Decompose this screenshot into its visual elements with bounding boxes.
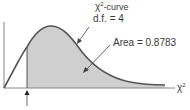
x-axis-label-sup: 2 bbox=[182, 82, 185, 88]
curve-name-label: χ2-curve bbox=[95, 2, 129, 12]
curve-pointer-arrowhead-icon bbox=[77, 38, 82, 44]
x-axis-label: χ2 bbox=[177, 83, 186, 93]
curve-pointer-arrow bbox=[79, 27, 89, 41]
area-label: Area = 0.8783 bbox=[113, 38, 176, 48]
shaded-area bbox=[27, 26, 165, 88]
cutoff-arrowhead-icon bbox=[25, 90, 30, 95]
area-pointer-arrow bbox=[86, 45, 110, 70]
curve-name-suffix: -curve bbox=[104, 2, 129, 12]
df-label: d.f. = 4 bbox=[93, 14, 124, 24]
